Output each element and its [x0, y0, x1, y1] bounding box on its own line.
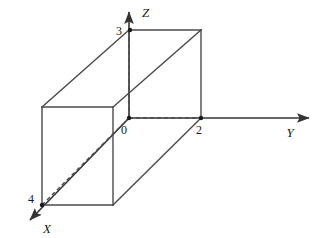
top-edge-left-diagonal — [42, 30, 129, 107]
x-axis-label: X — [42, 221, 52, 236]
diagram-canvas: 0 3 2 4 Z Y X — [0, 0, 325, 238]
top-edge-right-diagonal — [113, 30, 201, 107]
vertex-dot-x4 — [40, 203, 44, 207]
y-axis-label: Y — [286, 125, 295, 140]
z-axis-label: Z — [142, 5, 150, 20]
coordinate-box-figure: 0 3 2 4 Z Y X — [0, 0, 325, 238]
axes-group — [30, 12, 309, 220]
z-tick-3-label: 3 — [116, 24, 122, 38]
origin-label: 0 — [121, 123, 127, 137]
vertex-dot-y2 — [199, 116, 203, 120]
x-tick-4-label: 4 — [28, 192, 34, 206]
vertex-dot-z3 — [128, 28, 132, 32]
y-tick-2-label: 2 — [196, 123, 202, 137]
vertex-dot-origin — [127, 116, 131, 120]
